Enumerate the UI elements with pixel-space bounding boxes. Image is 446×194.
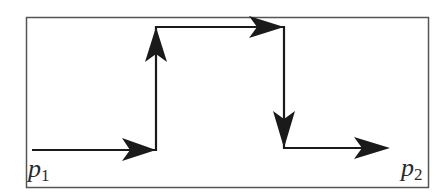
label-p1-base: p — [28, 154, 41, 183]
path-diagram — [0, 0, 446, 194]
label-p2-base: p — [401, 153, 414, 182]
label-p2-subscript: 2 — [414, 165, 423, 184]
label-p1-subscript: 1 — [41, 166, 50, 185]
diagram-border — [27, 18, 429, 188]
label-p2: p2 — [401, 155, 423, 183]
path-line — [32, 27, 384, 150]
label-p1: p1 — [28, 156, 50, 184]
